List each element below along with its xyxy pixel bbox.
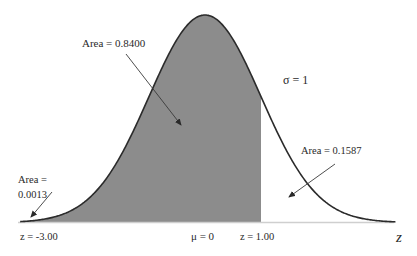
tick-label-z-minus-3: z = -3.00 <box>20 231 58 242</box>
tick-label-mean: μ = 0 <box>191 230 215 242</box>
label-area-right: Area = 0.1587 <box>301 145 361 156</box>
label-area-main: Area = 0.8400 <box>82 37 146 49</box>
tick-label-z-1: z = 1.00 <box>240 231 274 242</box>
axis-label-z: z <box>395 229 402 245</box>
arrow-area-right <box>289 164 335 197</box>
label-area-left-line2: 0.0013 <box>18 189 47 200</box>
label-sigma: σ = 1 <box>283 73 308 87</box>
normal-distribution-chart: Area = 0.8400 Area = 0.0013 Area = 0.158… <box>0 0 417 256</box>
label-area-left-line1: Area = <box>18 174 47 185</box>
